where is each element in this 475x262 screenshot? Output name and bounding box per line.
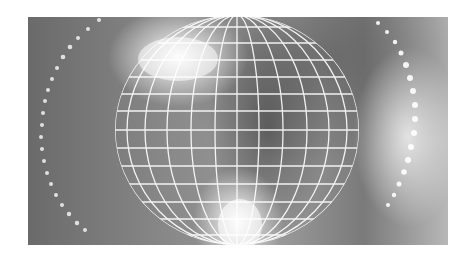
wireframe-globe-graphic <box>28 17 448 245</box>
light-flare-top <box>138 37 218 81</box>
light-flare-bottom <box>218 199 262 245</box>
globe-photo <box>28 17 448 245</box>
dotted-arc-right <box>376 21 418 207</box>
dotted-arc-left <box>39 18 101 232</box>
